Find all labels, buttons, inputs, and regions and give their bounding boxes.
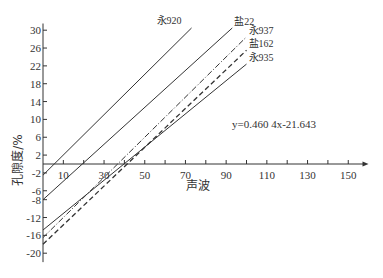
y-tick-label: 18 [30, 78, 42, 90]
x-tick-label: 90 [221, 169, 233, 181]
series-line [43, 28, 232, 200]
series-label: 永937 [249, 24, 274, 36]
x-tick-label: 150 [340, 169, 357, 181]
x-tick-label: 10 [58, 169, 70, 181]
regression-equation: y=0.460 4x-21.643 [232, 118, 317, 130]
x-tick-label: 110 [259, 169, 276, 181]
x-tick-label: 30 [99, 169, 111, 181]
x-tick-label: 130 [299, 169, 316, 181]
y-tick-label: 26 [30, 42, 42, 54]
y-axis-title: 孔隙度/% [10, 134, 25, 185]
y-tick-label: -16 [26, 229, 41, 241]
y-tick-label: -2 [32, 167, 41, 179]
x-axis-arrow-icon [363, 162, 369, 167]
series-label: 永935 [249, 51, 274, 63]
y-tick-label: 6 [36, 131, 42, 143]
series-line [43, 37, 247, 238]
y-tick-label: -8 [32, 194, 42, 206]
series-line [43, 64, 247, 230]
series-line [43, 28, 192, 175]
y-tick-label: -20 [26, 247, 41, 259]
porosity-vs-sonic-chart: 30262218141062-2-6-8-12-16-2010305070901… [0, 0, 383, 278]
x-tick-label: 50 [139, 169, 151, 181]
series-label: 永920 [157, 14, 182, 26]
y-tick-label: -12 [26, 212, 41, 224]
series-label: 盐162 [249, 37, 274, 49]
y-tick-label: 30 [30, 24, 42, 36]
series-lines [43, 28, 247, 244]
y-tick-label: 14 [30, 96, 42, 108]
y-tick-label: 2 [36, 149, 42, 161]
series-labels: 永920盐22永937盐162永935 [157, 14, 274, 63]
y-tick-label: 10 [30, 113, 42, 125]
y-tick-label: 22 [30, 60, 41, 72]
x-axis-title: 声波 [186, 179, 210, 193]
